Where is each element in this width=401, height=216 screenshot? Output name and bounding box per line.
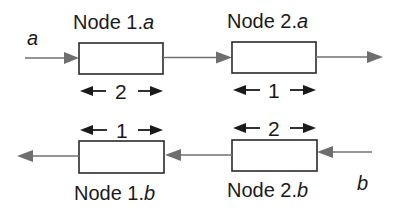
node-1b-dimension-value: 1 [116,119,128,142]
arrowhead-icon [216,52,232,64]
node-2b-label: Node 2.b [227,179,308,201]
left-arrow-icon [233,85,246,95]
node-2a-dimension: 1 [233,79,316,102]
arrowhead-icon [367,51,383,63]
arrowhead-icon [64,52,79,64]
arrowhead-icon [17,150,33,162]
node-1a: Node 1.a 2 [73,11,163,103]
right-arrow-icon [150,125,163,135]
right-arrow-icon [150,86,163,96]
node-1b-box [79,141,164,173]
node-2b: 2 Node 2.b [227,117,317,201]
node-1a-dimension-value: 2 [115,80,127,103]
left-arrow-icon [80,86,93,96]
left-arrow-icon [233,123,246,133]
node-1a-box [79,43,163,74]
chain-b: b 2 Node 2.b 1 [17,117,372,204]
arrowhead-icon [165,149,181,161]
right-arrow-icon [303,85,316,95]
left-arrow-icon [80,125,93,135]
arrowhead-icon [317,146,333,158]
node-1b-dimension: 1 [80,119,163,142]
node-1b-label: Node 1.b [74,182,155,204]
node-2a: Node 2.a 1 [227,10,316,102]
node-1b: 1 Node 1.b [74,119,164,204]
diagram-canvas: a Node 1.a 2 Node 2.a 1 [0,0,401,216]
node-1a-dimension: 2 [80,80,163,103]
input-label-a: a [27,27,38,49]
node-2a-label: Node 2.a [227,10,308,32]
chain-a: a Node 1.a 2 Node 2.a 1 [25,10,383,103]
node-2b-box [232,140,317,171]
node-2a-box [232,42,316,73]
node-2a-dimension-value: 1 [268,79,280,102]
input-label-b: b [357,172,368,194]
node-2b-dimension: 2 [233,117,316,140]
node-2b-dimension-value: 2 [268,117,280,140]
right-arrow-icon [303,123,316,133]
node-1a-label: Node 1.a [73,11,154,33]
